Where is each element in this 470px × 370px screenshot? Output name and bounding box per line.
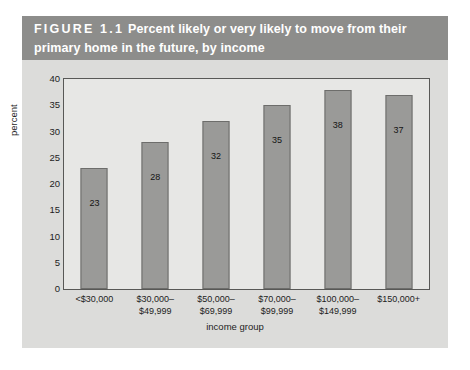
bar-value-label: 28 xyxy=(125,172,186,182)
y-axis-tick-label: 35 xyxy=(38,99,60,110)
y-axis-tick-label: 0 xyxy=(38,283,60,294)
bar-slot: 32 xyxy=(186,79,247,289)
y-axis-tick-label: 10 xyxy=(38,230,60,241)
y-axis-tick-label: 40 xyxy=(38,73,60,84)
bar-slot: 23 xyxy=(64,79,125,289)
bar-slot: 35 xyxy=(247,79,308,289)
figure-title-text-1: Percent likely or very likely to move fr… xyxy=(128,22,407,36)
x-axis-tick-label: $150,000+ xyxy=(356,294,441,306)
bar-value-label: 35 xyxy=(247,135,308,145)
bar xyxy=(142,142,169,289)
y-axis-tick-label: 20 xyxy=(38,178,60,189)
bar-series: 232832353837 xyxy=(64,79,429,289)
x-axis-tick-label-line: $149,999 xyxy=(295,306,380,318)
y-axis-title: percent xyxy=(8,104,19,136)
y-axis-tick-labels: 0510152025303540 xyxy=(36,78,60,290)
y-axis-tick-label: 25 xyxy=(38,151,60,162)
y-axis-tick-label: 5 xyxy=(38,256,60,267)
figure-header: FIGURE 1.1Percent likely or very likely … xyxy=(22,16,448,60)
y-axis-tick-label: 15 xyxy=(38,204,60,215)
bar-slot: 38 xyxy=(307,79,368,289)
bar-value-label: 38 xyxy=(307,120,368,130)
figure-title-line-1: FIGURE 1.1Percent likely or very likely … xyxy=(34,20,438,39)
bar-value-label: 32 xyxy=(186,151,247,161)
x-axis-title: income group xyxy=(22,321,448,332)
x-axis-tick-label-line: $150,000+ xyxy=(356,294,441,306)
bar-value-label: 37 xyxy=(368,125,429,135)
bar-slot: 37 xyxy=(368,79,429,289)
figure-number-label: FIGURE 1.1 xyxy=(34,22,124,36)
figure-title-line-2: primary home in the future, by income xyxy=(34,39,438,58)
bar-slot: 28 xyxy=(125,79,186,289)
figure-panel: FIGURE 1.1Percent likely or very likely … xyxy=(22,16,448,348)
bar xyxy=(203,121,230,289)
bar xyxy=(263,105,290,289)
bar-value-label: 23 xyxy=(64,198,125,208)
bar xyxy=(81,168,108,289)
y-axis-tick-label: 30 xyxy=(38,125,60,136)
